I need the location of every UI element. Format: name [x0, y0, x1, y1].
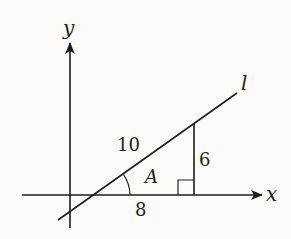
opposite-label: 6: [199, 149, 210, 170]
y-axis-label: y: [62, 16, 75, 40]
angle-a-label: A: [143, 166, 158, 187]
adjacent-label: 8: [135, 199, 146, 220]
line-l-label: l: [241, 71, 247, 95]
angle-a-arc: [124, 175, 131, 196]
right-angle-marker: [178, 180, 194, 195]
hypotenuse-label: 10: [117, 134, 140, 155]
coordinate-diagram: y x l 10 6 8 A: [0, 0, 291, 239]
x-axis-label: x: [266, 182, 277, 206]
